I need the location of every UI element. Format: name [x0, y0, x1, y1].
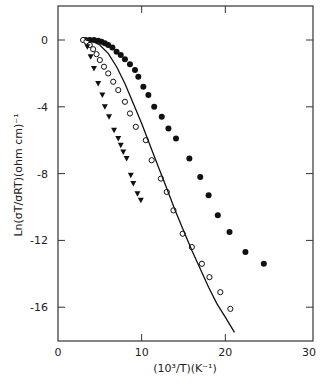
data-point [134, 191, 140, 197]
data-point [127, 61, 133, 67]
data-point [151, 104, 157, 110]
data-point [199, 261, 204, 266]
data-point [91, 66, 97, 72]
data-point [106, 71, 111, 76]
data-point [106, 114, 112, 120]
data-point [122, 99, 127, 104]
data-point [127, 111, 132, 116]
data-point [149, 158, 154, 163]
fit-curve [86, 40, 235, 332]
y-tick-label: -12 [30, 234, 48, 247]
y-axis-label: Ln(σT/σRT)(ohm cm)⁻¹ [12, 113, 25, 236]
data-point [165, 126, 171, 132]
data-point [140, 84, 146, 90]
data-point [227, 229, 233, 235]
data-point [94, 52, 99, 57]
data-point [118, 143, 124, 149]
x-tick-label: 10 [135, 346, 149, 359]
data-point [261, 261, 267, 267]
x-tick-label: 30 [302, 346, 316, 359]
data-point [95, 81, 101, 87]
data-point [111, 79, 116, 84]
data-point [130, 181, 136, 187]
data-point [116, 88, 121, 93]
x-tick-label: 0 [55, 346, 62, 359]
data-point [91, 47, 96, 52]
data-point [115, 136, 121, 142]
x-tick-label: 20 [218, 346, 232, 359]
data-point [120, 149, 126, 155]
data-point [124, 156, 130, 162]
data-point [215, 212, 221, 218]
conductivity-chart: 01020300-4-8-12-16 (10³/T)(K⁻¹) Ln(σT/σR… [0, 0, 327, 385]
data-point [88, 54, 94, 60]
data-point [135, 74, 141, 80]
series-theory-curve [86, 40, 235, 332]
x-axis-label: (10³/T)(K⁻¹) [153, 362, 216, 375]
data-point [97, 57, 102, 62]
data-point [99, 93, 105, 99]
data-point [186, 156, 192, 162]
data-point [228, 306, 233, 311]
data-point [133, 124, 138, 129]
axis-tick-labels: 01020300-4-8-12-16 [30, 34, 316, 359]
y-tick-label: -4 [37, 101, 48, 114]
data-point [159, 114, 165, 120]
data-series [81, 37, 267, 332]
data-point [138, 198, 144, 204]
y-tick-label: -16 [30, 301, 48, 314]
series-open-circles [81, 37, 233, 311]
data-point [102, 104, 108, 110]
data-point [122, 56, 128, 62]
data-point [111, 128, 117, 133]
data-point [206, 192, 212, 198]
data-point [207, 275, 212, 280]
data-point [132, 67, 138, 73]
data-point [197, 174, 203, 180]
data-point [145, 92, 151, 98]
y-tick-label: -8 [37, 168, 48, 181]
data-point [218, 290, 223, 295]
y-tick-label: 0 [41, 34, 48, 47]
data-point [101, 64, 106, 69]
data-point [128, 173, 134, 179]
data-point [242, 249, 248, 255]
data-point [173, 136, 179, 142]
